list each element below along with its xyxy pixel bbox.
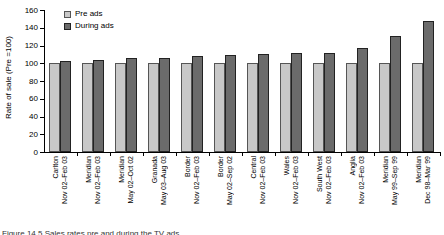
x-label-region: Granada (151, 156, 159, 183)
legend-item-during-ads: During ads (64, 20, 114, 32)
x-label-region: South West (316, 156, 324, 192)
x-label-period: Nov 02–Feb 03 (358, 156, 366, 204)
x-label-region: Meridian (118, 156, 126, 183)
bar-during-ads (126, 58, 137, 152)
legend-item-pre-ads: Pre ads (64, 8, 114, 20)
bar-pre-ads (346, 63, 357, 152)
bar-pre-ads (49, 63, 60, 152)
bar-pre-ads (379, 63, 390, 152)
during-ads-swatch-icon (64, 23, 71, 30)
x-label-period: May 02–Sep 02 (226, 156, 234, 205)
x-axis-label: BorderNov 02–Feb 03 (176, 156, 209, 222)
x-axis-label: GranadaMay 03–Aug 03 (143, 156, 176, 222)
x-label-period: Nov 02–Feb 03 (94, 156, 102, 204)
caption-fragment: Figure 14.5 Sales rates pre and during t… (2, 229, 442, 235)
x-label-region: Border (217, 156, 225, 177)
x-axis-label: CentralNov 02–Feb 03 (242, 156, 275, 222)
bar-pre-ads (115, 63, 126, 152)
x-axis-label: MeridianMay 02–Oct 02 (110, 156, 143, 222)
x-axis-label: WalesNov 02–Feb 03 (275, 156, 308, 222)
x-label-region: Anglia (349, 156, 357, 175)
bar-pre-ads (247, 63, 258, 152)
y-tick-label: 100 (8, 59, 38, 68)
x-label-period: Dec 98–Mar 99 (424, 156, 432, 204)
y-tick-label: 20 (8, 130, 38, 139)
x-axis-label: South WestNov 02–Feb 03 (308, 156, 341, 222)
x-label-period: Nov 02–Feb 03 (259, 156, 267, 204)
bar-during-ads (60, 61, 71, 152)
bar-chart: Rate of sale (Pre =100) 0204060801001201… (0, 0, 444, 235)
bar-during-ads (357, 48, 368, 152)
bar-during-ads (159, 58, 170, 152)
bar-during-ads (423, 21, 434, 152)
x-label-region: Border (184, 156, 192, 177)
bar-pre-ads (82, 63, 93, 152)
bar-during-ads (225, 55, 236, 152)
bar-pre-ads (214, 63, 225, 152)
x-axis-label: BorderMay 02–Sep 02 (209, 156, 242, 222)
bar-during-ads (291, 53, 302, 152)
y-tick-label: 120 (8, 41, 38, 50)
x-label-region: Meridian (382, 156, 390, 183)
x-axis-label: CarltonNov 02–Feb 03 (44, 156, 77, 222)
y-tick-label: 0 (8, 148, 38, 157)
y-tick-label: 40 (8, 112, 38, 121)
y-tick-label: 60 (8, 94, 38, 103)
x-label-region: Wales (283, 156, 291, 175)
bar-during-ads (93, 60, 104, 152)
bar-pre-ads (148, 63, 159, 152)
bar-pre-ads (313, 63, 324, 152)
y-axis-line (44, 10, 45, 152)
bar-pre-ads (280, 63, 291, 152)
x-label-period: Nov 02–Feb 03 (61, 156, 69, 204)
x-axis-label: AngliaNov 02–Feb 03 (341, 156, 374, 222)
bar-during-ads (258, 54, 269, 152)
x-label-region: Carlton (52, 156, 60, 179)
x-label-period: May 03–Aug 03 (160, 156, 168, 205)
x-label-region: Meridian (85, 156, 93, 183)
x-axis-label: MeridianMay 99–Sep 99 (374, 156, 407, 222)
legend: Pre ads During ads (64, 8, 114, 32)
x-label-period: May 99–Sep 99 (391, 156, 399, 205)
x-tick-mark (440, 153, 441, 156)
bar-during-ads (390, 36, 401, 152)
x-label-region: Central (250, 156, 258, 179)
legend-label-during-ads: During ads (75, 22, 114, 30)
x-axis-label: MeridianDec 98–Mar 99 (407, 156, 440, 222)
x-label-period: Nov 02–Feb 03 (292, 156, 300, 204)
legend-label-pre-ads: Pre ads (75, 10, 103, 18)
pre-ads-swatch-icon (64, 11, 71, 18)
x-label-period: Nov 02–Feb 03 (325, 156, 333, 204)
x-label-region: Meridian (415, 156, 423, 183)
bar-pre-ads (181, 63, 192, 152)
x-label-period: Nov 02–Feb 03 (193, 156, 201, 204)
y-tick-label: 80 (8, 77, 38, 86)
x-label-period: May 02–Oct 02 (127, 156, 135, 203)
bar-during-ads (192, 56, 203, 152)
bar-during-ads (324, 53, 335, 152)
y-tick-label: 160 (8, 6, 38, 15)
y-tick-label: 140 (8, 23, 38, 32)
bar-pre-ads (412, 63, 423, 152)
x-axis-label: MeridianNov 02–Feb 03 (77, 156, 110, 222)
